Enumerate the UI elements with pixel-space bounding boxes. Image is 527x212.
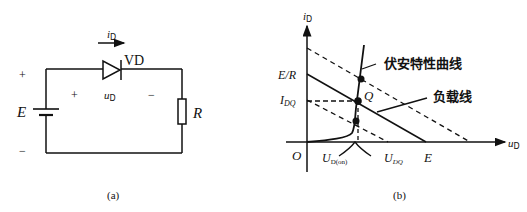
diode-minus-sign: − [148,88,155,102]
origin-label: O [292,148,302,163]
load-label-leader [377,98,427,112]
q-label: Q [364,88,374,103]
current-label: iD [107,28,116,42]
load-line-main [307,74,426,142]
x-intercept-label: E [423,150,432,165]
load-line-label: 负载线 [433,89,472,104]
diode-plus-sign: + [71,88,78,102]
caption-b: (b) [393,189,406,202]
diode-voltage-label: uD [104,89,116,103]
ud-on-label: UD(on) [322,151,348,166]
y-axis-label: iD [303,10,312,24]
vi-label-leader [362,64,376,69]
source-minus-sign: − [19,144,26,158]
resistor-label: R [192,105,202,121]
x-axis-label: uD [508,137,520,151]
point-lower [353,118,360,125]
resistor-icon [178,99,186,124]
idq-label: IDQ [279,93,296,108]
vi-curve-label: 伏安特性曲线 [384,56,462,71]
source-plus-sign: + [19,68,26,82]
y-intercept-label: E/R [277,68,297,82]
load-line-graph [286,26,505,172]
udq-label: UDQ [384,151,403,166]
vi-characteristic-curve [307,45,364,142]
source-label: E [16,104,26,120]
diode-label: VD [124,53,144,68]
diode-icon [103,61,120,79]
caption-a: (a) [107,189,120,202]
ud-on-bracket [339,142,371,156]
point-upper [358,76,365,83]
q-point [354,97,362,105]
